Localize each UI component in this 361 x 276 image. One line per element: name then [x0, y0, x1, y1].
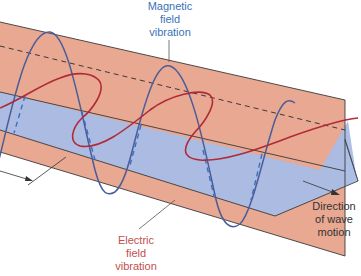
- electric-label-line-2: field: [106, 247, 166, 260]
- electric-label-line-3: vibration: [106, 260, 166, 273]
- electric-label-line-1: Electric: [106, 234, 166, 247]
- magnetic-field-label: Magnetic field vibration: [140, 0, 200, 39]
- direction-of-motion-label: Direction of wave motion: [305, 200, 361, 239]
- direction-label-line-2: of wave: [305, 213, 361, 226]
- wavelength-arrowhead-icon: [25, 176, 33, 181]
- direction-label-line-1: Direction: [305, 200, 361, 213]
- direction-label-line-3: motion: [305, 226, 361, 239]
- electric-field-label: Electric field vibration: [106, 234, 166, 273]
- electric-label-leader: [139, 200, 175, 229]
- magnetic-label-line-1: Magnetic: [140, 0, 200, 13]
- magnetic-label-line-2: field: [140, 13, 200, 26]
- magnetic-label-line-3: vibration: [140, 26, 200, 39]
